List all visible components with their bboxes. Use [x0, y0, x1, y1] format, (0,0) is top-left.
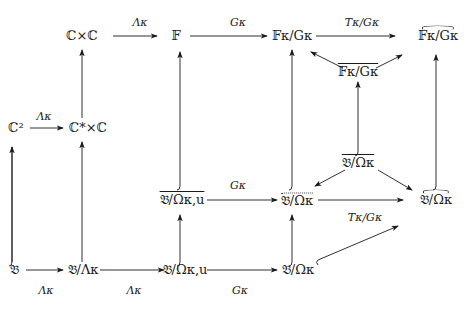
- node-B-mod-Omega-hat: 𝔅/Ωκ: [420, 193, 452, 207]
- label-top-lambda: Λκ: [132, 16, 147, 29]
- node-B-mod-Lambda: 𝔅/Λκ: [68, 263, 99, 277]
- node-B-mod-Omega-u: 𝔅/Ωκ,u: [163, 263, 208, 277]
- node-F-mod-G-hat: 𝔽κ/Gκ: [418, 29, 458, 43]
- label-bottom-lambda-2: Λκ: [126, 284, 141, 297]
- node-B-mod-Omega-u-bar: 𝔅/Ωκ,u: [160, 193, 205, 207]
- node-B: 𝔅: [10, 263, 19, 277]
- label-top-G: Gκ: [230, 16, 246, 29]
- label-bottom-G: Gκ: [232, 284, 248, 297]
- node-F-kappa: 𝔽: [171, 29, 180, 43]
- node-B-mod-Omega-dot: 𝔅/Ωκ: [281, 193, 313, 208]
- arrow-FGbar-FGhat: [376, 55, 402, 68]
- label-top-TG: Tκ/Gκ: [345, 16, 379, 29]
- label-mid-G: Gκ: [230, 179, 246, 192]
- arrow-BOmegabar-BOmegadot: [315, 170, 345, 186]
- node-C-star-times-C: ℂ*×ℂ: [69, 121, 107, 135]
- node-B-mod-Omega: 𝔅/Ωκ: [282, 263, 314, 277]
- label-bottom-lambda-1: Λκ: [38, 284, 53, 297]
- node-F-mod-G-bar: 𝔽κ/Gκ: [338, 65, 378, 79]
- node-F-mod-G: 𝔽κ/Gκ: [272, 29, 312, 43]
- label-left-lambda: Λκ: [36, 110, 51, 123]
- label-mid-TG: Tκ/Gκ: [348, 211, 382, 224]
- node-B-mod-Omega-bar: 𝔅/Ωκ: [342, 156, 374, 170]
- arrow-BOmega-BOmegahat: [317, 226, 399, 265]
- node-C-squared: ℂ²: [8, 121, 24, 135]
- arrow-BOmegabar-BOmegahat: [378, 170, 412, 190]
- node-C-times-C: ℂ×ℂ: [66, 29, 98, 43]
